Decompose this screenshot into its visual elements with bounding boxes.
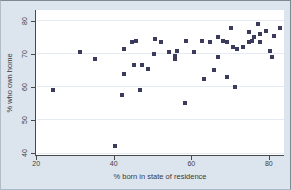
data-point: [120, 93, 124, 97]
data-point: [270, 55, 274, 59]
data-point: [241, 45, 245, 49]
data-point: [200, 39, 204, 43]
data-point: [235, 47, 239, 51]
data-point: [159, 40, 163, 44]
y-tick-label: 50: [21, 116, 28, 124]
data-point: [153, 37, 157, 41]
data-point: [256, 22, 260, 26]
x-tick-label: 40: [110, 160, 118, 167]
data-point: [252, 35, 256, 39]
y-tick-mark: [31, 54, 35, 55]
x-tick-label: 60: [187, 160, 195, 167]
h-gridline: [37, 153, 284, 154]
y-tick-label: 70: [21, 50, 28, 58]
data-point: [258, 32, 262, 36]
h-gridline: [37, 20, 284, 21]
data-point: [152, 52, 156, 56]
data-point: [113, 144, 117, 148]
data-point: [212, 68, 216, 72]
data-point: [247, 30, 251, 34]
data-point: [146, 67, 150, 71]
x-tick-label: 80: [265, 160, 273, 167]
data-point: [51, 88, 55, 92]
data-point: [225, 40, 229, 44]
data-point: [264, 29, 268, 33]
data-point: [132, 63, 136, 67]
data-point: [192, 50, 196, 54]
data-point: [258, 40, 262, 44]
x-axis-title: % born in state of residence: [114, 173, 207, 181]
y-tick-label: 60: [21, 83, 28, 91]
data-point: [229, 26, 233, 30]
data-point: [138, 88, 142, 92]
y-tick-mark: [31, 120, 35, 121]
data-point: [216, 55, 220, 59]
data-point: [93, 57, 97, 61]
plot-area: [35, 10, 284, 156]
h-gridline: [37, 86, 284, 87]
data-point: [140, 63, 144, 67]
data-point: [167, 50, 171, 54]
data-point: [225, 75, 229, 79]
data-point: [184, 39, 188, 43]
data-point: [278, 26, 282, 30]
data-point: [233, 85, 237, 89]
data-point: [272, 34, 276, 38]
data-point: [175, 49, 179, 53]
data-point: [173, 57, 177, 61]
h-gridline: [37, 53, 284, 54]
y-tick-mark: [31, 21, 35, 22]
data-point: [134, 39, 138, 43]
y-axis-title: % who own home: [6, 53, 14, 112]
y-tick-mark: [31, 87, 35, 88]
data-point: [78, 50, 82, 54]
h-gridline: [37, 119, 284, 120]
scatter-plot-figure: % born in state of residence % who own h…: [0, 0, 291, 190]
data-point: [122, 47, 126, 51]
y-tick-label: 80: [21, 17, 28, 25]
data-point: [202, 77, 206, 81]
data-point: [122, 72, 126, 76]
data-point: [208, 40, 212, 44]
data-point: [183, 101, 187, 105]
data-point: [268, 49, 272, 53]
y-tick-label: 40: [21, 149, 28, 157]
x-tick-label: 20: [32, 160, 40, 167]
y-tick-mark: [31, 153, 35, 154]
data-point: [216, 35, 220, 39]
